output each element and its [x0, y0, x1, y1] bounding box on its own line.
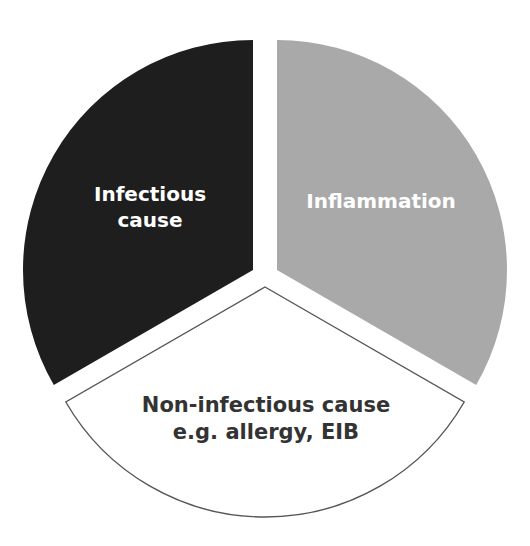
label-infectious-line1: Infectious: [94, 181, 206, 207]
label-infectious-cause: Infectious cause: [94, 181, 206, 233]
label-noninfectious-line2: e.g. allergy, EIB: [142, 419, 390, 446]
label-noninfectious-line1: Non-infectious cause: [142, 392, 390, 419]
label-inflammation: Inflammation: [306, 188, 456, 214]
label-infectious-line2: cause: [94, 207, 206, 233]
label-inflammation-text: Inflammation: [306, 188, 456, 214]
label-non-infectious-cause: Non-infectious cause e.g. allergy, EIB: [142, 392, 390, 446]
pie-chart: [0, 0, 530, 546]
